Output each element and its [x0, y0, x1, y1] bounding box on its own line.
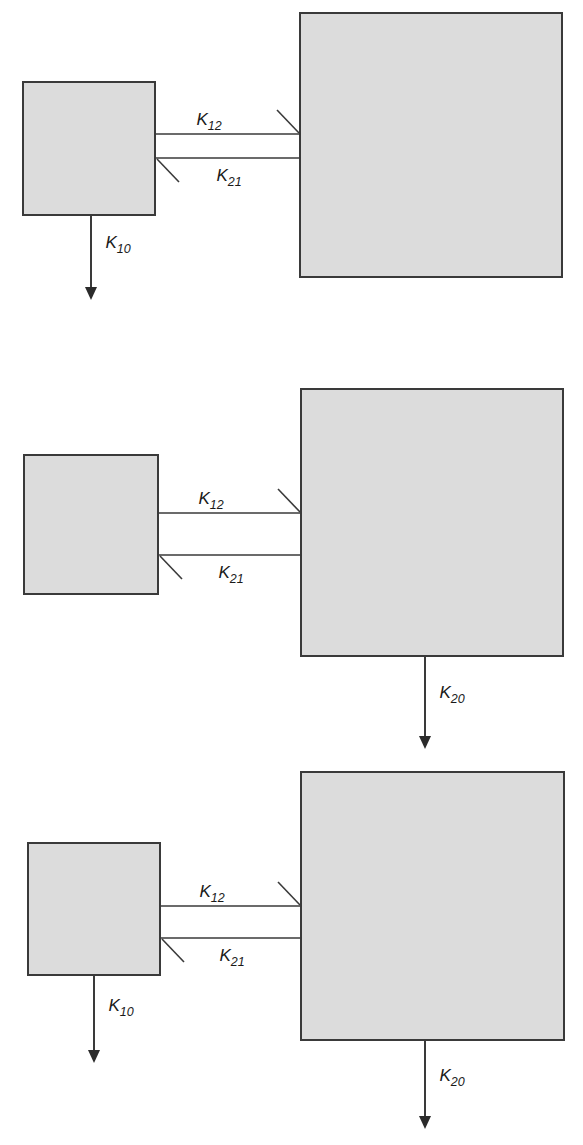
panel-2-k20-label: K20 — [439, 683, 464, 706]
panel-3-k12-arrowhead-icon — [278, 882, 300, 905]
panel-3-compartment-1-box — [28, 843, 160, 975]
panel-1-compartment-1-box — [23, 82, 155, 215]
panel-1-k12-label: K12 — [196, 110, 221, 133]
panel-1-k21-label: K21 — [216, 166, 241, 189]
panel-1-k12-arrowhead-icon — [277, 110, 299, 133]
diagram-canvas: K12 K21 K10 K12 — [0, 0, 583, 1145]
panel-3-k10-label: K10 — [108, 996, 133, 1019]
panel-1-k21-arrowhead-icon — [157, 159, 179, 182]
panel-1-compartment-2-box — [300, 13, 562, 277]
panel-2-k21-arrowhead-icon — [160, 556, 182, 579]
panel-3-k21-label: K21 — [219, 946, 244, 969]
panel-2-k12-label: K12 — [198, 489, 223, 512]
panel-2-k20-arrowhead-icon — [419, 736, 431, 749]
panel-2: K12 K21 K20 — [24, 389, 563, 749]
panel-1-k10-label: K10 — [105, 233, 130, 256]
panel-2-k21-label: K21 — [218, 563, 243, 586]
panel-2-k12-arrowhead-icon — [278, 489, 300, 512]
panel-2-compartment-2-box — [301, 389, 563, 656]
panel-3-k21-arrowhead-icon — [162, 939, 184, 962]
panel-1-k10-arrowhead-icon — [85, 287, 97, 300]
panel-2-compartment-1-box — [24, 455, 158, 594]
panel-1: K12 K21 K10 — [23, 13, 562, 300]
panel-3-k20-arrowhead-icon — [419, 1116, 431, 1129]
panel-3-k20-label: K20 — [439, 1066, 464, 1089]
panel-3-compartment-2-box — [301, 772, 564, 1040]
panel-3-k12-label: K12 — [199, 882, 224, 905]
panel-3-k10-arrowhead-icon — [88, 1050, 100, 1063]
panel-3: K12 K21 K10 K20 — [28, 772, 564, 1129]
